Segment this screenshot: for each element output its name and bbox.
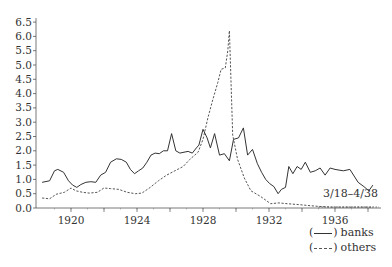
y-tick-label: 3.0: [15, 116, 32, 128]
y-tick-label: 5.5: [15, 44, 32, 56]
y-tick-label: 2.5: [15, 130, 32, 142]
x-axis: 19201924192819321936: [36, 208, 381, 226]
legend: ( ) banks ( ) others: [309, 225, 376, 255]
legend-label: banks: [341, 225, 374, 240]
y-axis: 0.00.51.01.52.02.53.03.54.04.55.05.56.06…: [15, 16, 36, 214]
y-tick-label: 5.0: [15, 59, 32, 71]
solid-line-swatch-icon: [314, 233, 332, 234]
y-tick-label: 0.5: [15, 187, 32, 199]
date-range-annotation: 3/18–4/38: [323, 187, 378, 200]
x-tick-label: 1928: [190, 214, 217, 226]
y-tick-label: 6.5: [15, 16, 32, 28]
banks-line: [42, 128, 373, 194]
y-tick-label: 3.5: [15, 101, 32, 113]
legend-open-paren: (: [309, 225, 313, 240]
x-tick-label: 1932: [256, 214, 283, 226]
y-tick-label: 6.0: [15, 30, 32, 42]
y-tick-label: 1.0: [15, 173, 32, 185]
legend-close-paren: ): [333, 225, 337, 240]
others-line: [42, 31, 373, 207]
legend-item-banks: ( ) banks: [309, 225, 376, 240]
y-tick-label: 2.0: [15, 144, 32, 156]
y-tick-label: 0.0: [15, 202, 32, 214]
legend-label: others: [341, 240, 377, 255]
x-tick-label: 1924: [124, 214, 151, 226]
y-tick-label: 1.5: [15, 159, 32, 171]
series-layer: [42, 31, 379, 207]
legend-close-paren: ): [333, 240, 337, 255]
x-tick-label: 1920: [58, 214, 85, 226]
y-tick-label: 4.0: [15, 87, 32, 99]
legend-item-others: ( ) others: [309, 240, 376, 255]
dashed-line-swatch-icon: [314, 248, 332, 249]
legend-open-paren: (: [309, 240, 313, 255]
y-tick-label: 4.5: [15, 73, 32, 85]
